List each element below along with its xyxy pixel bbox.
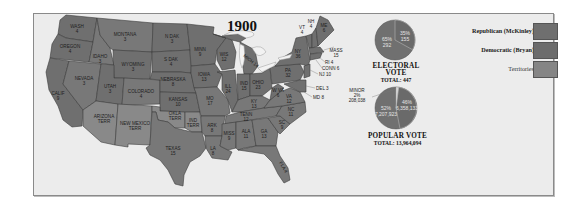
state-nj[interactable]	[304, 64, 310, 78]
electoral-vote-total: TOTAL: 447	[366, 77, 426, 84]
svg-text:KY13: KY13	[251, 99, 257, 109]
election-year-title: 1900	[227, 18, 257, 35]
svg-text:OKLATERR: OKLATERR	[169, 111, 182, 121]
popular-vote-caption: POPULAR VOTE TOTAL: 13,964,094	[360, 133, 435, 147]
svg-text:NJ 10: NJ 10	[319, 72, 331, 77]
legend-label: Territories	[508, 65, 534, 72]
svg-text:VT4: VT4	[299, 25, 305, 35]
svg-text:7,207,923: 7,207,923	[375, 111, 397, 117]
legend-swatch-republican	[533, 23, 558, 40]
state-conn-ri[interactable]	[310, 53, 322, 60]
electoral-vote-pie: 65% 292 35% 155	[375, 20, 415, 60]
svg-text:155: 155	[401, 36, 410, 42]
popular-vote-total: TOTAL: 13,964,094	[360, 140, 435, 147]
state-ny[interactable]	[275, 36, 310, 66]
svg-text:RI 4: RI 4	[325, 60, 334, 65]
legend-label: Republican (McKinley)	[472, 27, 534, 34]
svg-text:NY36: NY36	[295, 49, 301, 59]
legend-swatch-territories	[533, 61, 558, 78]
minor-party-label: MINOR 2% 208,038	[341, 88, 373, 104]
legend-item-democratic: Democratic (Bryan)	[460, 41, 570, 60]
svg-text:6,358,133: 6,358,133	[396, 105, 418, 111]
svg-text:CONN 6: CONN 6	[322, 66, 340, 71]
legend-item-republican: Republican (McKinley)	[460, 22, 570, 41]
popular-vote-pie: 52% 7,207,923 46% 6,358,133	[372, 87, 418, 129]
legend: Republican (McKinley) Democratic (Bryan)…	[460, 22, 570, 79]
minor-votes: 208,038	[341, 98, 373, 103]
electoral-vote-caption: ELECTORAL VOTE TOTAL: 447	[366, 63, 426, 84]
legend-item-territories: Territories	[460, 60, 570, 79]
electoral-vote-title: ELECTORAL VOTE	[366, 63, 426, 77]
popular-vote-title: POPULAR VOTE	[360, 133, 435, 140]
svg-text:NH4: NH4	[308, 19, 315, 29]
svg-text:MD 8: MD 8	[313, 95, 324, 100]
legend-label: Democratic (Bryan)	[481, 46, 534, 53]
svg-text:292: 292	[383, 42, 392, 48]
svg-text:MASS15: MASS15	[329, 48, 342, 58]
svg-text:DEL 3: DEL 3	[316, 86, 329, 91]
legend-swatch-democratic	[533, 42, 558, 59]
